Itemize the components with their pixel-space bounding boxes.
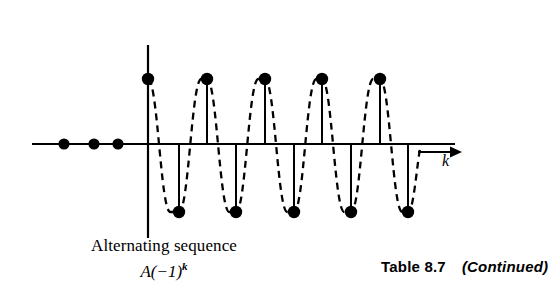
caption-title: Alternating sequence — [54, 236, 274, 256]
sample-marker-8 — [374, 73, 386, 85]
x-axis-label: k — [442, 152, 449, 170]
sample-marker-4 — [259, 73, 271, 85]
continuation-dot-3 — [112, 138, 123, 149]
sample-marker-1 — [173, 206, 185, 218]
x-axis-arrow-icon — [418, 147, 462, 158]
sample-marker-3 — [230, 206, 242, 218]
sample-marker-0 — [142, 73, 154, 85]
table-label: Table 8.7 — [381, 258, 446, 275]
sample-marker-7 — [345, 206, 357, 218]
sample-marker-2 — [201, 73, 213, 85]
sample-marker-9 — [402, 206, 414, 218]
table-continued-label: (Continued) — [462, 258, 548, 275]
alternating-sequence-figure: k Alternating sequence A(−1)k Table 8.7(… — [0, 0, 550, 292]
continuation-dots — [58, 138, 123, 149]
sample-stems — [148, 79, 408, 212]
sample-marker-6 — [316, 73, 328, 85]
continuation-dot-1 — [58, 138, 69, 149]
table-caption: Table 8.7(Continued) — [381, 258, 548, 275]
sample-markers — [142, 73, 414, 218]
sample-marker-5 — [288, 206, 300, 218]
caption-expression-base: A(−1) — [140, 262, 182, 281]
caption-expression-exponent: k — [182, 260, 188, 272]
caption-expression: A(−1)k — [54, 260, 274, 282]
continuation-dot-2 — [88, 138, 99, 149]
figure-caption: Alternating sequence A(−1)k — [54, 236, 274, 282]
